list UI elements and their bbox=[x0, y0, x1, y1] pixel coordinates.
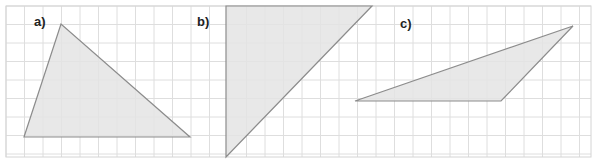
triangle-b bbox=[226, 6, 372, 157]
label-c: c) bbox=[400, 16, 412, 31]
label-a: a) bbox=[34, 14, 46, 29]
label-b: b) bbox=[197, 14, 209, 29]
triangle-grid-figure: a) b) c) bbox=[0, 0, 596, 160]
triangles bbox=[24, 6, 573, 157]
triangle-c bbox=[355, 26, 573, 101]
